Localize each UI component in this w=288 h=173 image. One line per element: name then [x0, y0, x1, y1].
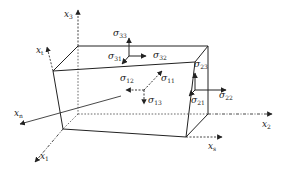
- hidden-edges: [63, 46, 208, 129]
- coordinate-axes: [20, 10, 272, 162]
- axis-label-x1: x1: [40, 152, 49, 162]
- axis-label-x3: x3: [64, 10, 73, 20]
- stress-label-s22: σ22: [219, 91, 233, 101]
- axis-label-x2: x2: [262, 120, 271, 130]
- stress-label-s11: σ11: [161, 74, 175, 84]
- element-edges: [53, 46, 208, 137]
- stress-label-s31: σ31: [108, 52, 122, 62]
- stress-label-s12: σ12: [120, 74, 134, 84]
- top-face-stresses: [122, 38, 146, 64]
- diagram-drawing: [0, 0, 288, 173]
- stress-label-s23: σ23: [194, 60, 208, 70]
- axis-xn-arrow: [20, 96, 121, 124]
- stress-label-s21: σ21: [191, 96, 205, 106]
- axis-label-xn: xn: [14, 109, 23, 119]
- stress-label-s33: σ33: [113, 29, 127, 39]
- axis-xt-arrow: [47, 47, 53, 71]
- axis-label-xt: xt: [36, 46, 44, 56]
- stress-label-s32: σ32: [153, 51, 167, 61]
- stress-label-s13: σ13: [148, 96, 162, 106]
- axis-label-xs: xs: [208, 142, 216, 152]
- stress-element-diagram: x3 x2 x1 xt xn xs σ33 σ31 σ32 σ12 σ11 σ1…: [0, 0, 288, 173]
